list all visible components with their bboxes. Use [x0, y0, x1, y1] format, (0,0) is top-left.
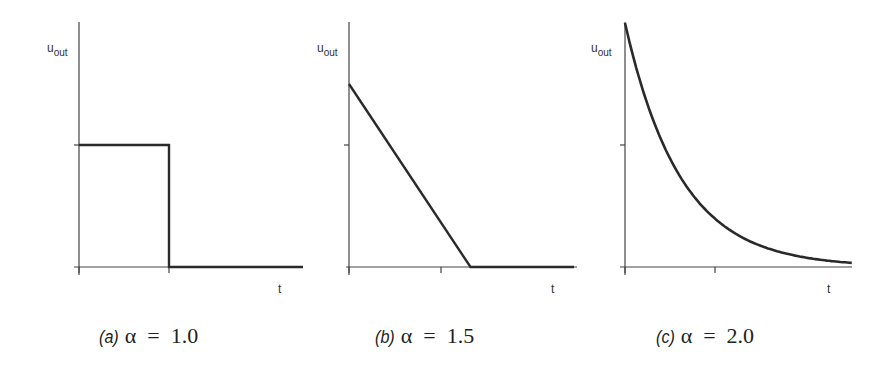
panel-b-xlabel: t — [551, 282, 554, 296]
panel-a-axes — [74, 22, 303, 275]
panel-c-curve — [625, 23, 852, 263]
panel-a-xlabel: t — [278, 282, 281, 296]
panel-b-caption: (b) α = 1.5 — [375, 323, 474, 349]
panel-a-curve — [79, 145, 303, 267]
panel-b-axes — [344, 22, 577, 275]
panel-b-ylabel: uout — [317, 41, 338, 58]
panel-c-caption: (c) α = 2.0 — [656, 323, 754, 349]
plots-canvas — [0, 0, 896, 373]
panel-c-xlabel: t — [827, 282, 830, 296]
panel-c-ylabel: uout — [591, 41, 612, 58]
panel-b-curve — [349, 84, 574, 267]
panel-c-axes — [620, 22, 852, 275]
panel-a-caption: (a) α = 1.0 — [99, 323, 198, 349]
figure: uout t (a) α = 1.0 uout t (b) α = 1.5 uo… — [0, 0, 896, 373]
panel-a-ylabel: uout — [47, 41, 68, 58]
